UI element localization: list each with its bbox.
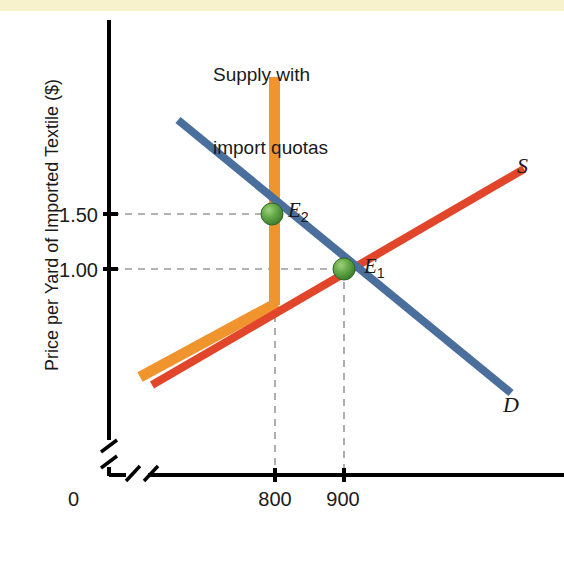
supply-curve-label: S	[517, 153, 528, 180]
y-axis	[101, 20, 118, 476]
x-axis	[109, 466, 564, 482]
equilibrium-label-E1-base: E	[364, 254, 377, 278]
y-axis-break-mark	[101, 440, 117, 452]
equilibrium-label-E2-base: E	[288, 198, 301, 222]
x-axis-break-mark	[126, 466, 140, 481]
equilibrium-dot-E1	[333, 258, 355, 280]
quota-annotation-line2: import quotas	[213, 136, 328, 160]
equilibrium-label-E1: E1	[364, 254, 385, 283]
x-axis-title: Quantity of Textiles Imported per Year (…	[0, 520, 564, 561]
quota-annotation-title: Supply with import quotas	[213, 14, 328, 209]
origin-label: 0	[68, 487, 79, 511]
y-axis-break-mark	[101, 456, 117, 468]
quota-annotation-line1: Supply with	[213, 63, 328, 87]
economics-supply-demand-figure: Supply with import quotas 1.50 1.00 800 …	[0, 0, 564, 561]
demand-curve-label: D	[503, 392, 519, 419]
equilibrium-label-E1-sub: 1	[377, 265, 385, 281]
y-axis-title: Price per Yard of Imported Textile ($)	[42, 5, 64, 445]
equilibrium-label-E2: E2	[288, 198, 309, 227]
x-tick-label-900: 900	[311, 487, 375, 511]
x-tick-label-800: 800	[243, 487, 307, 511]
equilibrium-label-E2-sub: 2	[301, 209, 309, 225]
